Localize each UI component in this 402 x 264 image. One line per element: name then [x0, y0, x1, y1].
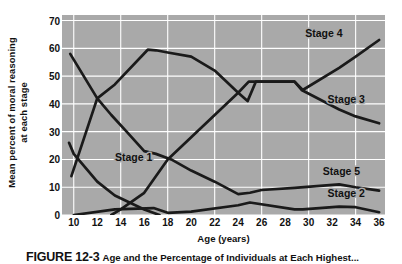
y-axis-title-text: Mean percent of moral reasoning at each …: [6, 37, 29, 188]
x-tick-label: 18: [162, 217, 173, 228]
y-tick-label: 0: [34, 210, 60, 221]
figure-caption-text: Age and the Percentage of Individuals at…: [103, 252, 359, 263]
x-tick-label: 16: [139, 217, 150, 228]
chart-svg: Stage 1Stage 1Stage 2Stage 2Stage 3Stage…: [62, 15, 385, 215]
y-axis-title-line-1: Mean percent of moral reasoning: [6, 37, 18, 188]
x-tick-label: 14: [115, 217, 126, 228]
x-tick-label: 28: [280, 217, 291, 228]
y-tick-label: 70: [34, 15, 60, 26]
series-label-group: Stage 1Stage 1: [115, 151, 153, 163]
series-label-stage-2: Stage 2: [328, 187, 366, 199]
series-label-group: Stage 2Stage 2: [328, 187, 366, 199]
series-label-stage-5: Stage 5: [323, 165, 361, 177]
y-axis-tick-labels: 010203040506070: [34, 15, 60, 215]
series-label-group: Stage 5Stage 5: [323, 165, 361, 177]
figure-caption: FIGURE 12-3 Age and the Percentage of In…: [26, 250, 402, 264]
series-label-group: Stage 3Stage 3: [328, 93, 366, 105]
x-tick-label: 24: [233, 217, 244, 228]
y-axis-title-line-2: at each stage: [17, 37, 29, 188]
x-tick-label: 30: [303, 217, 314, 228]
x-tick-label: 26: [256, 217, 267, 228]
series-label-group: Stage 4Stage 4: [305, 27, 343, 39]
y-tick-label: 60: [34, 43, 60, 54]
plot-area: Stage 1Stage 1Stage 2Stage 2Stage 3Stage…: [62, 15, 385, 215]
figure-caption-number: FIGURE 12-3: [26, 250, 100, 264]
x-tick-label: 20: [186, 217, 197, 228]
x-tick-label: 22: [209, 217, 220, 228]
x-axis-title: Age (years): [62, 233, 385, 244]
y-tick-label: 40: [34, 98, 60, 109]
y-axis-title: Mean percent of moral reasoning at each …: [0, 0, 34, 225]
x-tick-label: 12: [92, 217, 103, 228]
y-tick-label: 30: [34, 126, 60, 137]
series-labels: Stage 1Stage 1Stage 2Stage 2Stage 3Stage…: [115, 27, 365, 199]
y-tick-label: 10: [34, 182, 60, 193]
y-tick-label: 20: [34, 154, 60, 165]
series-label-stage-4: Stage 4: [305, 27, 343, 39]
x-tick-label: 32: [327, 217, 338, 228]
x-tick-label: 36: [374, 217, 385, 228]
x-axis-tick-labels: 1012141618202224262830323436: [62, 217, 385, 231]
x-tick-label: 10: [68, 217, 79, 228]
series-label-stage-3: Stage 3: [328, 93, 366, 105]
x-tick-label: 34: [350, 217, 361, 228]
series-label-stage-1: Stage 1: [115, 151, 153, 163]
y-tick-label: 50: [34, 71, 60, 82]
